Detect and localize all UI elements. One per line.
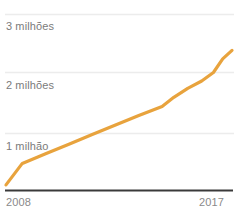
y-tick-label-1-million: 1 milhão [6,140,48,153]
y-tick-label-2-million: 2 milhões [6,79,54,92]
y-tick-label-3-million: 3 milhões [6,20,54,33]
line-chart: 3 milhões 2 milhões 1 milhão 2008 2017 [0,0,245,219]
data-series-line [6,50,232,185]
x-tick-label-start-year: 2008 [6,196,31,209]
x-tick-label-end-year: 2017 [199,196,224,209]
